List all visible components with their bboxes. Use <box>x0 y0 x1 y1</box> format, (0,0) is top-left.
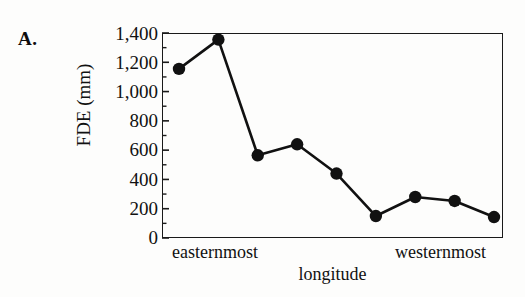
y-tick-label: 400 <box>130 170 159 189</box>
y-tick-label: 800 <box>130 111 159 130</box>
x-category-label-easternmost: easternmost <box>172 242 258 263</box>
panel-label: A. <box>18 28 37 50</box>
y-tick-label: 1,200 <box>115 53 158 72</box>
y-axis-label: FDE (mm) <box>73 15 95 195</box>
y-axis-tick-labels: 1,400 1,200 1,000 800 600 400 200 0 <box>96 0 158 297</box>
figure-panel: A. FDE (mm) 1,400 1,200 1,000 800 600 40… <box>0 0 525 297</box>
x-category-label-westernmost: westernmost <box>395 242 486 263</box>
y-tick-label: 1,000 <box>115 82 158 101</box>
y-tick-label: 200 <box>130 199 159 218</box>
x-axis-label: longitude <box>162 264 503 285</box>
plot-area <box>162 33 503 238</box>
y-tick-label: 0 <box>149 228 159 247</box>
y-tick-label: 1,400 <box>115 24 158 43</box>
y-tick-label: 600 <box>130 140 159 159</box>
